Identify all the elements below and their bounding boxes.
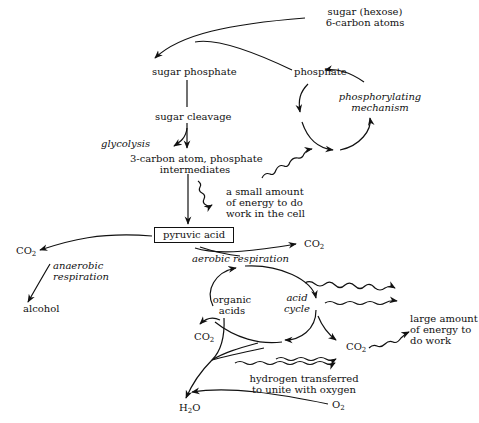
h2o-post: O (192, 402, 200, 413)
label-anaerobic-respiration: anaerobic respiration (53, 260, 109, 282)
label-small-energy-line2: of energy to do (226, 197, 305, 208)
label-alcohol: alcohol (23, 303, 59, 314)
co2-cycle-left-sub: 2 (210, 336, 214, 344)
label-3-carbon-intermediates: 3-carbon atom, phosphate intermediates (130, 153, 260, 175)
label-aerobic-respiration: aerobic respiration (192, 253, 289, 264)
label-sugar-hexose-line2: 6-carbon atoms (305, 17, 425, 28)
label-co2-cycle-left: CO2 (194, 331, 214, 344)
label-3-carbon-line1: 3-carbon atom, phosphate (130, 153, 260, 164)
label-co2-right: CO2 (304, 238, 324, 251)
label-phosphorylating-mechanism: phosphorylating mechanism (332, 91, 428, 113)
arrow-to-co2-cycle-right (318, 316, 336, 340)
phosphorylating-cycle-bottom (302, 122, 333, 150)
label-h2o: H2O (179, 402, 200, 415)
label-co2-cycle-right: CO2 (346, 341, 366, 354)
label-hydrogen-line1: hydrogen transferred (244, 373, 364, 384)
phosphorylating-cycle-left (299, 84, 308, 112)
o2-sub: 2 (340, 404, 344, 412)
arrow-anaerobic-to-alcohol (28, 264, 50, 302)
label-hydrogen-transferred: hydrogen transferred to unite with oxyge… (244, 373, 364, 395)
label-acid-cycle-line1: acid (279, 292, 315, 303)
label-acid-cycle: acid cycle (279, 292, 315, 314)
o2-base: O (332, 399, 340, 410)
acid-cycle-bottom-line (215, 322, 282, 343)
label-co2-left: CO2 (16, 245, 36, 258)
label-large-energy-line2: of energy to (410, 324, 478, 335)
co2-left-base: CO (16, 245, 32, 256)
label-large-energy-line1: large amount (410, 313, 478, 324)
co2-left-sub: 2 (32, 250, 36, 258)
h2o-pre: H (179, 402, 188, 413)
wavy-energy-to-phosphorylation (262, 149, 312, 178)
co2-cycle-right-base: CO (346, 341, 362, 352)
label-large-energy-line3: do work (410, 335, 478, 346)
phosphorylating-cycle-right (340, 118, 370, 150)
label-sugar-phosphate: sugar phosphate (152, 66, 237, 77)
label-small-energy-line1: a small amount (226, 186, 305, 197)
wavy-hydrogen-1 (276, 358, 336, 361)
label-organic-acids-line2: acids (208, 305, 256, 316)
label-sugar-cleavage: sugar cleavage (155, 111, 232, 122)
label-anaerobic-line1: anaerobic (53, 260, 109, 271)
label-small-energy-line3: work in the cell (226, 208, 305, 219)
h2o-sub: 2 (188, 407, 192, 415)
wavy-hydrogen-2 (235, 362, 335, 365)
label-sugar-hexose-line1: sugar (hexose) (305, 6, 425, 17)
arrow-pyruvic-to-co2-left (40, 235, 152, 250)
arrow-to-h2o (186, 360, 212, 398)
wavy-large-energy-3 (369, 332, 409, 348)
label-phosphorylating-line2: mechanism (332, 102, 428, 113)
label-phosphate: phosphate (294, 66, 347, 77)
label-anaerobic-line2: respiration (53, 271, 109, 282)
line-hydrogen-2 (212, 348, 264, 360)
co2-cycle-right-sub: 2 (362, 346, 366, 354)
wavy-large-energy-1 (305, 282, 395, 290)
label-phosphorylating-line1: phosphorylating (332, 91, 428, 102)
label-hydrogen-line2: to unite with oxygen (244, 384, 364, 395)
wavy-large-energy-2 (325, 301, 397, 305)
arrow-sugar-to-sugar-phosphate (155, 18, 305, 58)
label-acid-cycle-line2: cycle (279, 303, 315, 314)
label-3-carbon-line2: intermediates (130, 164, 260, 175)
wavy-small-energy (198, 181, 212, 206)
label-o2: O2 (332, 399, 345, 412)
co2-right-sub: 2 (320, 243, 324, 251)
label-small-energy: a small amount of energy to do work in t… (226, 186, 305, 219)
co2-right-base: CO (304, 238, 320, 249)
arrow-glycolysis (174, 128, 187, 146)
acid-cycle-bottom-arrow (285, 310, 316, 340)
label-large-energy: large amount of energy to do work (410, 313, 478, 346)
label-sugar-hexose: sugar (hexose) 6-carbon atoms (305, 6, 425, 28)
co2-cycle-left-base: CO (194, 331, 210, 342)
label-organic-acids: organic acids (208, 294, 256, 316)
label-organic-acids-line1: organic (208, 294, 256, 305)
label-glycolysis: glycolysis (101, 138, 150, 149)
pyruvic-acid-box: pyruvic acid (154, 227, 234, 243)
